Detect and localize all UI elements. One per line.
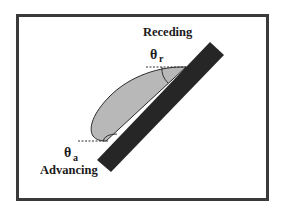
theta-a-subscript: a [73, 152, 78, 163]
receding-label: Receding [143, 25, 193, 39]
advancing-label: Advancing [40, 163, 98, 177]
theta-a-symbol: θ [64, 145, 71, 160]
contact-angle-diagram: Receding θ r θ a Advancing [0, 0, 284, 211]
theta-r-subscript: r [159, 53, 164, 64]
theta-r-symbol: θ [150, 47, 157, 62]
